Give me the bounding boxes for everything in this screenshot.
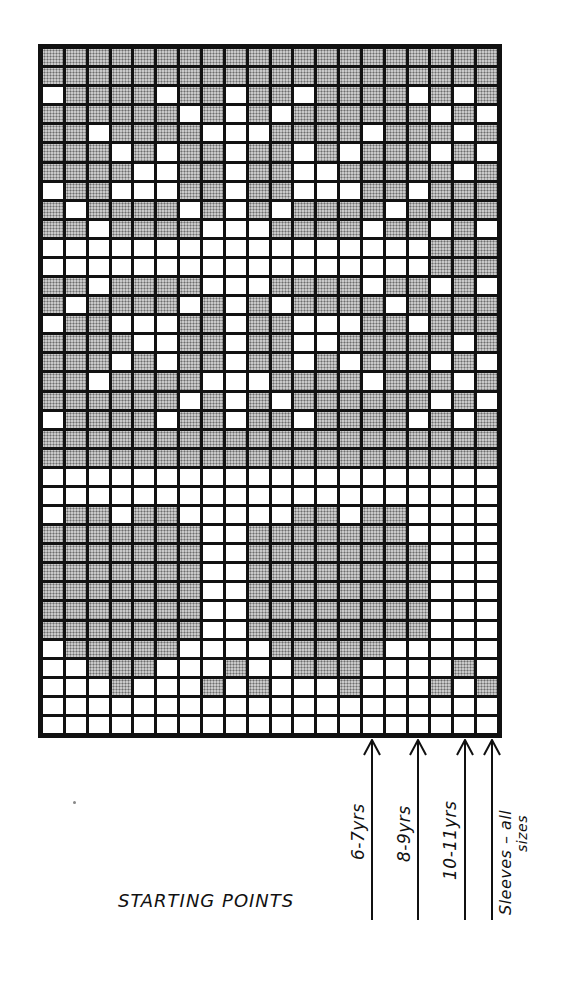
chart-cell-white [409,679,429,695]
chart-cell-white [431,278,451,294]
chart-cell-shaded [317,373,337,389]
chart-cell-shaded [66,144,86,160]
chart-cell-shaded [43,164,63,180]
chart-cell-white [249,278,269,294]
chart-cell-white [477,622,497,638]
chart-cell-shaded [294,660,314,676]
chart-cell-shaded [66,164,86,180]
chart-cell-white [203,373,223,389]
chart-cell-white [454,564,474,580]
chart-cell-shaded [43,602,63,618]
chart-cell-shaded [386,49,406,65]
chart-cell-shaded [431,87,451,103]
chart-cell-white [409,507,429,523]
chart-cell-shaded [363,393,383,409]
chart-cell-white [272,660,292,676]
chart-cell-shaded [409,431,429,447]
chart-cell-white [431,144,451,160]
chart-cell-shaded [386,450,406,466]
chart-cell-shaded [66,526,86,542]
chart-cell-white [294,259,314,275]
chart-cell-shaded [89,297,109,313]
chart-cell-shaded [43,49,63,65]
chart-cell-white [226,335,246,351]
chart-cell-shaded [203,316,223,332]
chart-cell-shaded [134,68,154,84]
chart-cell-shaded [454,316,474,332]
chart-cell-white [454,679,474,695]
chart-cell-white [409,87,429,103]
chart-cell-shaded [431,450,451,466]
chart-cell-white [477,144,497,160]
chart-cell-shaded [112,393,132,409]
chart-cell-shaded [386,125,406,141]
chart-cell-shaded [112,564,132,580]
chart-cell-shaded [431,164,451,180]
chart-cell-white [294,717,314,733]
chart-cell-white [431,469,451,485]
chart-cell-shaded [249,583,269,599]
chart-cell-shaded [431,373,451,389]
chart-cell-shaded [134,526,154,542]
chart-cell-white [409,183,429,199]
chart-cell-white [112,316,132,332]
chart-cell-shaded [317,393,337,409]
chart-cell-white [43,698,63,714]
chart-cell-shaded [272,278,292,294]
chart-cell-shaded [409,164,429,180]
chart-cell-shaded [89,335,109,351]
chart-cell-white [226,221,246,237]
chart-cell-shaded [363,49,383,65]
chart-cell-white [180,297,200,313]
chart-cell-white [157,679,177,695]
chart-cell-white [112,259,132,275]
chart-cell-shaded [409,622,429,638]
chart-cell-shaded [317,660,337,676]
chart-cell-shaded [89,507,109,523]
chart-cell-shaded [363,641,383,657]
chart-cell-white [66,679,86,695]
chart-cell-white [454,373,474,389]
chart-cell-white [409,488,429,504]
chart-cell-white [340,717,360,733]
chart-cell-white [386,717,406,733]
chart-cell-white [157,660,177,676]
chart-cell-shaded [89,316,109,332]
chart-cell-shaded [409,335,429,351]
chart-cell-shaded [477,259,497,275]
chart-cell-white [89,679,109,695]
chart-cell-white [317,240,337,256]
chart-cell-white [272,202,292,218]
chart-cell-shaded [363,412,383,428]
chart-cell-white [294,164,314,180]
chart-cell-shaded [317,144,337,160]
chart-cell-white [386,698,406,714]
chart-cell-shaded [317,602,337,618]
chart-cell-shaded [386,564,406,580]
chart-cell-shaded [272,125,292,141]
chart-cell-shaded [43,202,63,218]
chart-cell-white [226,373,246,389]
chart-cell-shaded [203,431,223,447]
chart-cell-shaded [294,622,314,638]
chart-cell-shaded [409,564,429,580]
chart-cell-shaded [134,87,154,103]
chart-cell-white [454,583,474,599]
chart-cell-white [226,144,246,160]
chart-cell-shaded [272,602,292,618]
chart-cell-white [317,316,337,332]
chart-cell-white [134,183,154,199]
chart-cell-shaded [66,373,86,389]
chart-cell-shaded [249,412,269,428]
chart-cell-white [386,469,406,485]
chart-cell-white [340,469,360,485]
chart-cell-white [363,469,383,485]
chart-cell-white [43,316,63,332]
chart-cell-white [43,240,63,256]
chart-cell-shaded [272,412,292,428]
chart-cell-white [477,507,497,523]
chart-cell-shaded [340,450,360,466]
chart-cell-shaded [89,431,109,447]
chart-cell-shaded [363,564,383,580]
chart-cell-shaded [66,125,86,141]
